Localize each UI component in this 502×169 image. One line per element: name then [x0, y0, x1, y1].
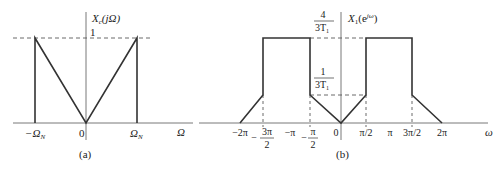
- y-label-b: X1(ejω): [347, 12, 378, 26]
- panel-a: Xc(jΩ) 1 −ΩN 0 ΩN Ω (a): [13, 12, 193, 161]
- tick-zero-a: 0: [79, 127, 85, 139]
- tick-2pi: 2π: [437, 127, 447, 138]
- caption-b: (b): [336, 148, 349, 161]
- svg-text:−: −: [301, 132, 307, 143]
- level-low-label: 1 3T1: [314, 66, 334, 91]
- svg-text:−: −: [251, 132, 257, 143]
- tick-omega-n: ΩN: [130, 127, 143, 141]
- caption-a: (a): [79, 148, 92, 161]
- svg-text:1: 1: [321, 66, 326, 77]
- tick-neg-omega-n: −ΩN: [25, 127, 45, 141]
- level-label-a: 1: [90, 26, 96, 38]
- level-high-label: 4 3T1: [314, 9, 334, 34]
- tick-neg-pi: −π: [285, 127, 296, 138]
- svg-text:2: 2: [265, 139, 270, 150]
- svg-text:3π: 3π: [262, 126, 272, 137]
- tick-neg-pi-over-2: − π 2: [301, 126, 318, 150]
- svg-text:3T1: 3T1: [315, 22, 329, 34]
- panel-b: X1(ejω) 4 3T1 1 3T1 −2π − 3π 2 −π − π 2 …: [199, 9, 493, 161]
- y-label-a: Xc(jΩ): [91, 12, 121, 26]
- svg-text:4: 4: [321, 9, 326, 20]
- svg-text:3T1: 3T1: [315, 79, 329, 91]
- x-axis-label-b: ω: [485, 126, 493, 138]
- svg-text:π: π: [310, 126, 315, 137]
- tick-pi-over-2: π/2: [360, 127, 373, 138]
- tick-zero-b: 0: [334, 127, 339, 138]
- tick-neg-2pi: −2π: [232, 127, 248, 138]
- tick-3pi-over-2: 3π/2: [403, 127, 421, 138]
- tick-pi: π: [387, 127, 392, 138]
- tick-neg-3pi-over-2: − 3π 2: [251, 126, 274, 150]
- x-axis-label-a: Ω: [177, 126, 185, 138]
- svg-text:2: 2: [311, 139, 316, 150]
